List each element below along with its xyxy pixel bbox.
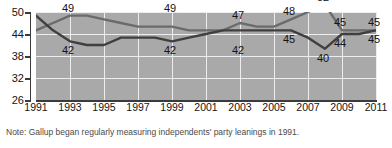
line-series-democratic xyxy=(36,12,376,30)
y-axis xyxy=(30,12,37,101)
data-point-label: 47 xyxy=(232,10,244,21)
data-point-label: 48 xyxy=(283,6,295,17)
data-point-label: 44 xyxy=(334,38,346,49)
chart-note: Note: Gallup began regularly measuring i… xyxy=(6,128,299,137)
y-axis-tick xyxy=(25,12,31,14)
x-axis-tick-label: 1995 xyxy=(87,102,121,113)
data-point-label: 45 xyxy=(368,34,380,45)
data-point-label: 42 xyxy=(164,45,176,56)
x-axis-tick-label: 2001 xyxy=(189,102,223,113)
data-point-label: 45 xyxy=(334,17,346,28)
y-axis-tick xyxy=(25,34,31,36)
data-point-label: 40 xyxy=(317,53,329,64)
x-axis-tick-label: 2011 xyxy=(359,102,392,113)
line-series-republican xyxy=(36,16,376,49)
x-axis-tick-label: 2009 xyxy=(325,102,359,113)
data-point-label: 52 xyxy=(317,0,329,3)
y-axis-tick xyxy=(25,56,31,58)
y-axis-tick-label: 32 xyxy=(0,73,24,84)
x-axis-tick-label: 1999 xyxy=(155,102,189,113)
data-point-label: 49 xyxy=(62,3,74,14)
x-axis-tick-label: 1991 xyxy=(19,102,53,113)
y-axis-tick xyxy=(25,78,31,80)
x-axis-tick-label: 2003 xyxy=(223,102,257,113)
x-axis-tick-label: 1997 xyxy=(121,102,155,113)
y-axis-tick-label: 38 xyxy=(0,51,24,62)
data-point-label: 45 xyxy=(283,34,295,45)
y-axis-tick-label: 50 xyxy=(0,7,24,18)
data-point-label: 42 xyxy=(62,45,74,56)
data-point-label: 45 xyxy=(368,17,380,28)
x-axis-tick-label: 2005 xyxy=(257,102,291,113)
x-axis-tick-label: 2007 xyxy=(291,102,325,113)
x-axis-tick-label: 1993 xyxy=(53,102,87,113)
data-point-label: 49 xyxy=(164,3,176,14)
y-axis-tick-label: 44 xyxy=(0,29,24,40)
data-point-label: 42 xyxy=(232,45,244,56)
